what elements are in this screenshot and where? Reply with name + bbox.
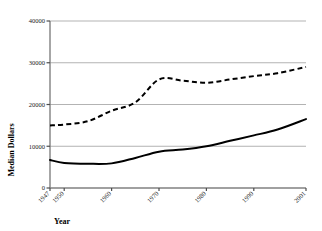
x-tick-labels: 1947 1950 1960 1970 1980 1990 2001 (37, 189, 307, 204)
y-tick-label: 40000 (29, 17, 45, 24)
x-tick-label: 1950 (51, 190, 65, 204)
x-tick-label: 2001 (293, 190, 307, 204)
line-chart: 40000 30000 20000 10000 0 1947 1950 1960… (0, 0, 322, 231)
x-tick-label: 1980 (193, 190, 207, 204)
y-tick-label: 30000 (29, 59, 45, 66)
x-tick-label: 1990 (240, 190, 254, 204)
series-line-solid (50, 119, 306, 164)
y-tick-labels: 40000 30000 20000 10000 0 (29, 17, 45, 191)
y-tick-label: 10000 (29, 143, 45, 150)
chart-container: 40000 30000 20000 10000 0 1947 1950 1960… (0, 0, 322, 231)
gridlines (50, 21, 306, 146)
series-line-dashed (50, 67, 306, 125)
y-tick-label: 20000 (29, 101, 45, 108)
x-tick-label: 1960 (98, 190, 112, 204)
x-tick-label: 1970 (146, 190, 160, 204)
x-tick-label: 1947 (37, 189, 52, 204)
y-axis-title: Median Dollars (7, 123, 16, 176)
x-axis-title: Year (54, 217, 70, 226)
